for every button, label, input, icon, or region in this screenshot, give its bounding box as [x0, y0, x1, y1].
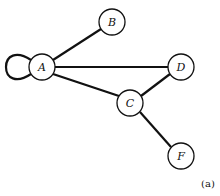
node-label-D: D	[176, 61, 186, 74]
node-B: B	[99, 9, 125, 35]
node-C: C	[117, 90, 143, 116]
node-A: A	[29, 54, 55, 80]
graph-diagram: A B D C F (a)	[0, 0, 220, 196]
edge-A-B	[53, 29, 101, 60]
node-F: F	[168, 143, 194, 169]
node-label-F: F	[176, 150, 185, 163]
edge-C-D	[141, 74, 170, 96]
figure-caption: (a)	[201, 178, 215, 189]
node-label-B: B	[107, 16, 116, 29]
edges	[6, 29, 171, 147]
node-D: D	[168, 54, 194, 80]
edge-A-A-self-loop	[6, 55, 31, 79]
edge-A-C	[53, 74, 119, 96]
node-label-A: A	[37, 61, 46, 74]
node-label-C: C	[126, 97, 135, 110]
edge-C-F	[140, 112, 171, 147]
